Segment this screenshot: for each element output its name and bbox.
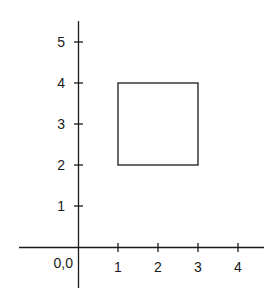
square [118, 83, 198, 165]
y-tick-label-5: 5 [57, 34, 65, 50]
x-tick-label-3: 3 [194, 259, 202, 275]
coordinate-plane: 5 4 3 2 1 1 2 3 4 0,0 [0, 0, 276, 301]
y-tick-label-3: 3 [57, 116, 65, 132]
y-tick-label-1: 1 [57, 198, 65, 214]
x-tick-label-2: 2 [154, 259, 162, 275]
y-tick-label-2: 2 [57, 157, 65, 173]
origin-label: 0,0 [54, 255, 74, 271]
x-tick-label-4: 4 [234, 259, 242, 275]
y-tick-label-4: 4 [57, 75, 65, 91]
x-tick-label-1: 1 [114, 259, 122, 275]
